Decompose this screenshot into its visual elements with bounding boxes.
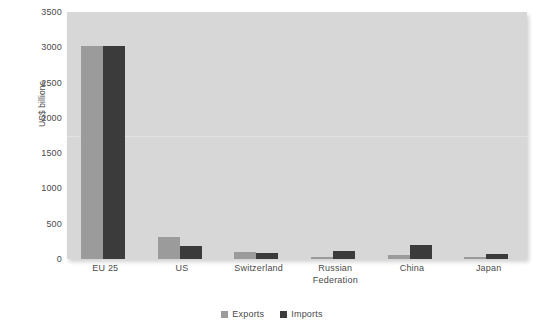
bar-group (220, 12, 297, 259)
x-axis-label: China (374, 263, 451, 275)
legend-label: Imports (291, 309, 322, 319)
x-axis-label: EU 25 (67, 263, 144, 275)
legend-item[interactable]: Exports (221, 309, 264, 319)
bar-imports[interactable] (486, 254, 508, 259)
bar-group (144, 12, 221, 259)
x-axis-label-line: China (374, 263, 451, 275)
bar-exports[interactable] (464, 257, 486, 259)
x-axis-label-line: US (144, 263, 221, 275)
y-axis-tick: 1500 (18, 148, 62, 158)
x-axis-label: RussianFederation (297, 263, 374, 286)
x-axis-label: US (144, 263, 221, 275)
bar-group (297, 12, 374, 259)
x-axis-label-line: Japan (450, 263, 527, 275)
chart-figure: US$ billions 050010001500200025003000350… (0, 0, 544, 330)
x-axis-label: Japan (450, 263, 527, 275)
bar-exports[interactable] (234, 252, 256, 259)
bar-group (450, 12, 527, 259)
legend-label: Exports (232, 309, 264, 319)
bar-exports[interactable] (81, 46, 103, 259)
bar-group (374, 12, 451, 259)
x-axis-label-line: Switzerland (220, 263, 297, 275)
x-axis-label-line: Russian (297, 263, 374, 275)
bar-imports[interactable] (256, 253, 278, 259)
bar-exports[interactable] (388, 255, 410, 259)
bar-imports[interactable] (180, 246, 202, 259)
bar-imports[interactable] (103, 46, 125, 259)
x-axis-category-labels: EU 25USSwitzerlandRussianFederationChina… (67, 263, 527, 299)
legend-swatch-icon (280, 311, 287, 318)
legend-swatch-icon (221, 311, 228, 318)
x-axis-label: Switzerland (220, 263, 297, 275)
bars-layer (67, 12, 527, 259)
x-axis-label-line: Federation (297, 275, 374, 287)
y-axis-tick: 500 (18, 219, 62, 229)
y-axis-tick: 3500 (18, 7, 62, 17)
bar-imports[interactable] (410, 245, 432, 259)
plot-area (67, 12, 527, 259)
y-axis-tick: 2000 (18, 113, 62, 123)
bar-exports[interactable] (311, 257, 333, 259)
legend-item[interactable]: Imports (280, 309, 322, 319)
y-axis-tick: 2500 (18, 78, 62, 88)
bar-imports[interactable] (333, 251, 355, 259)
y-axis-tick-labels: 0500100015002000250030003500 (18, 0, 62, 270)
y-axis-tick: 0 (18, 254, 62, 264)
y-axis-tick: 3000 (18, 42, 62, 52)
x-axis-label-line: EU 25 (67, 263, 144, 275)
chart-legend: ExportsImports (0, 306, 544, 322)
y-axis-tick: 1000 (18, 183, 62, 193)
bar-exports[interactable] (158, 237, 180, 259)
bar-group (67, 12, 144, 259)
